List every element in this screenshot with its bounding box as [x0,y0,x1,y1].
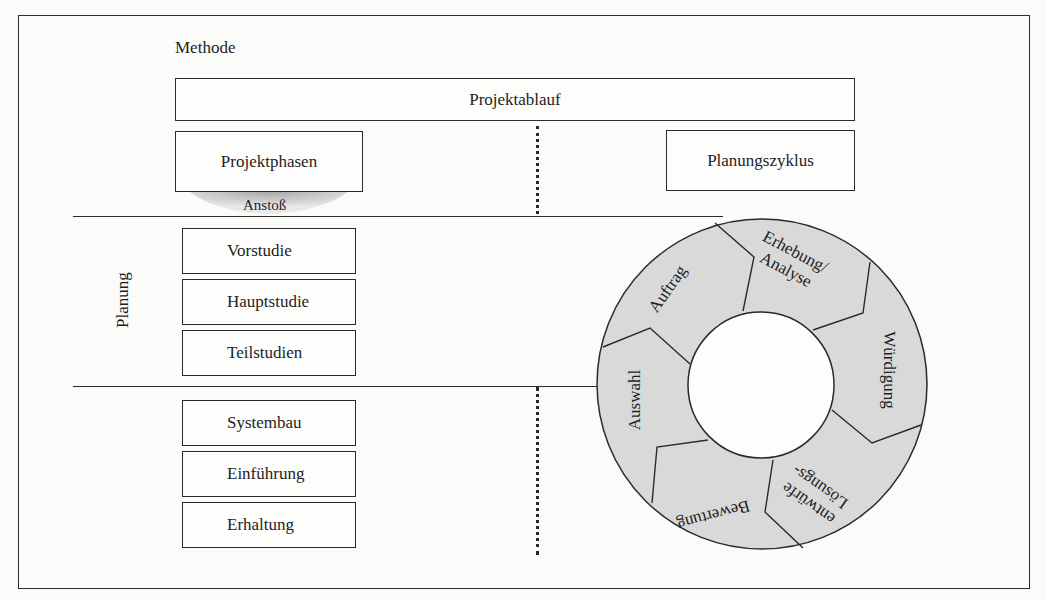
segment-label-wuerdigung: Würdigung [880,331,899,409]
planning-cycle-ring: Auftrag Erhebung/ Analyse Würdigung Lösu… [0,0,1046,600]
ring-inner [688,312,834,458]
segment-label-auswahl: Auswahl [625,370,644,431]
